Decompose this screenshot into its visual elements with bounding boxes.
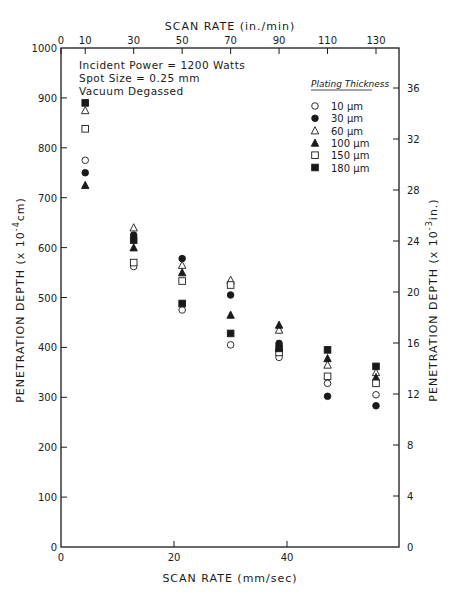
filled-triangle-data-point xyxy=(324,354,331,361)
left-tick-label: 100 xyxy=(38,492,57,503)
filled-square-legend-icon xyxy=(312,164,319,171)
top-tick-label: 130 xyxy=(366,35,385,46)
filled-square-data-point xyxy=(82,100,89,107)
annotation-incident-power: Incident Power = 1200 Watts xyxy=(79,59,245,71)
penetration-depth-chart: SCAN RATE (in./min) 01030507090110130 02… xyxy=(0,0,449,592)
open-square-data-point xyxy=(179,278,186,285)
right-axis-title-exp: -3 xyxy=(425,220,434,230)
filled-triangle-data-point xyxy=(227,311,234,318)
left-tick-label: 600 xyxy=(38,243,57,254)
bottom-axis-ticks: 02040 xyxy=(58,541,294,563)
filled-square-data-point xyxy=(227,330,234,337)
right-tick-label: 8 xyxy=(407,440,413,451)
filled-circle-data-point xyxy=(324,393,331,400)
bottom-tick-label: 20 xyxy=(168,552,181,563)
open-triangle-data-point xyxy=(178,261,185,268)
legend-item-label: 180 μm xyxy=(331,163,369,174)
filled-square-data-point xyxy=(179,300,186,307)
open-square-legend-icon xyxy=(312,152,319,159)
annotation-vacuum: Vacuum Degassed xyxy=(79,85,184,97)
left-axis-ticks: 01002003004005006007008009001000 xyxy=(32,43,67,553)
annotation-spot-size: Spot Size = 0.25 mm xyxy=(79,72,200,84)
left-tick-label: 900 xyxy=(38,93,57,104)
left-tick-label: 1000 xyxy=(32,43,57,54)
open-square-data-point xyxy=(373,380,380,387)
right-axis-title-main: PENETRATION DEPTH (x 10 xyxy=(427,230,440,402)
filled-circle-data-point xyxy=(227,292,234,299)
filled-triangle-legend-icon xyxy=(311,139,318,146)
right-tick-label: 16 xyxy=(407,338,420,349)
open-triangle-data-point xyxy=(82,106,89,113)
left-tick-label: 0 xyxy=(51,542,57,553)
legend-items: 10 μm30 μm60 μm100 μm150 μm180 μm xyxy=(311,101,369,174)
right-tick-label: 32 xyxy=(407,134,420,145)
filled-circle-data-point xyxy=(82,169,89,176)
right-tick-label: 36 xyxy=(407,83,420,94)
top-tick-label: 30 xyxy=(127,35,140,46)
left-tick-label: 200 xyxy=(38,442,57,453)
top-tick-label: 50 xyxy=(176,35,189,46)
legend-title: Plating Thickness xyxy=(311,79,390,89)
legend: Plating Thickness 10 μm30 μm60 μm100 μm1… xyxy=(311,79,390,174)
right-tick-label: 0 xyxy=(407,542,413,553)
legend-item-label: 150 μm xyxy=(331,150,369,161)
right-axis-ticks: 04812162024283236 xyxy=(393,83,420,553)
legend-item-label: 10 μm xyxy=(331,101,363,112)
top-tick-label: 90 xyxy=(273,35,286,46)
filled-circle-data-point xyxy=(373,402,380,409)
legend-item-label: 100 μm xyxy=(331,138,369,149)
left-tick-label: 400 xyxy=(38,342,57,353)
left-axis-title: PENETRATION DEPTH (x 10-4cm) xyxy=(12,197,27,403)
filled-triangle-data-point xyxy=(178,269,185,276)
legend-item-label: 60 μm xyxy=(331,126,363,137)
open-square-data-point xyxy=(324,373,331,380)
right-tick-label: 28 xyxy=(407,185,420,196)
top-axis-title: SCAN RATE (in./min) xyxy=(165,20,296,33)
open-square-data-point xyxy=(130,259,137,266)
bottom-tick-label: 0 xyxy=(58,552,64,563)
right-tick-label: 24 xyxy=(407,236,420,247)
right-axis-title-unit: in.) xyxy=(427,198,440,220)
filled-square-data-point xyxy=(324,347,331,354)
legend-item-label: 30 μm xyxy=(331,113,363,124)
filled-triangle-data-point xyxy=(275,321,282,328)
open-circle-data-point xyxy=(82,157,89,164)
right-tick-label: 4 xyxy=(407,491,413,502)
top-tick-label: 70 xyxy=(224,35,237,46)
left-tick-label: 500 xyxy=(38,293,57,304)
open-circle-legend-icon xyxy=(312,103,319,110)
bottom-axis-title: SCAN RATE (mm/sec) xyxy=(162,572,297,585)
right-tick-label: 12 xyxy=(407,389,420,400)
top-tick-label: 110 xyxy=(318,35,337,46)
bottom-tick-label: 40 xyxy=(281,552,294,563)
open-triangle-data-point xyxy=(130,224,137,231)
open-square-data-point xyxy=(227,282,234,289)
top-axis-ticks: 01030507090110130 xyxy=(58,35,386,54)
left-tick-label: 700 xyxy=(38,193,57,204)
top-tick-label: 0 xyxy=(58,35,64,46)
open-triangle-legend-icon xyxy=(311,127,318,134)
filled-triangle-data-point xyxy=(82,181,89,188)
left-axis-title-unit: cm) xyxy=(14,197,27,221)
left-tick-label: 800 xyxy=(38,143,57,154)
left-tick-label: 300 xyxy=(38,392,57,403)
left-axis-title-main: PENETRATION DEPTH (x 10 xyxy=(14,231,27,403)
open-circle-data-point xyxy=(227,342,234,349)
filled-circle-legend-icon xyxy=(312,115,319,122)
filled-triangle-data-point xyxy=(130,244,137,251)
filled-square-data-point xyxy=(373,363,380,370)
open-square-data-point xyxy=(82,126,89,133)
filled-square-data-point xyxy=(130,237,137,244)
filled-square-data-point xyxy=(276,345,283,352)
open-circle-data-point xyxy=(324,380,331,387)
right-axis-title: PENETRATION DEPTH (x 10-3in.) xyxy=(425,198,440,401)
open-circle-data-point xyxy=(179,307,186,314)
top-tick-label: 10 xyxy=(79,35,92,46)
left-axis-title-exp: -4 xyxy=(12,221,21,231)
open-circle-data-point xyxy=(373,392,380,399)
right-tick-label: 20 xyxy=(407,287,420,298)
